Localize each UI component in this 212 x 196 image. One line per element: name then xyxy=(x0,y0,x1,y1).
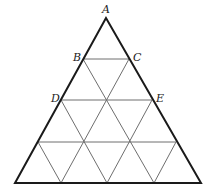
vertex-label-C: C xyxy=(133,51,142,64)
vertex-label-D: D xyxy=(50,92,60,105)
vertex-label-E: E xyxy=(155,92,164,105)
vertex-label-B: B xyxy=(72,51,81,64)
inner-grid-lines xyxy=(38,59,176,183)
grid-diagonal-right-2 xyxy=(38,142,61,183)
grid-diagonal-left-2 xyxy=(154,142,176,183)
triangle-grid-diagram: ABCDE xyxy=(0,0,212,196)
vertex-label-A: A xyxy=(101,3,110,16)
